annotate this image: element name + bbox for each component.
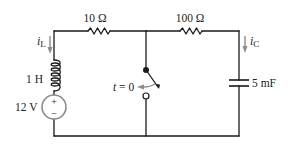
circuit-schematic: 10 Ω 100 Ω iL iC 1 H 12 V + − 5 mF t = 0 [0, 0, 291, 148]
voltage-source-plus: + [51, 96, 57, 107]
current-arrow-iL-icon [48, 36, 53, 54]
resistor-10-ohm [88, 28, 110, 34]
voltage-source-label: 12 V [15, 101, 38, 113]
resistor-100-ohm-label: 100 Ω [176, 12, 205, 24]
voltage-source-minus: − [51, 108, 57, 119]
switch-open-terminal [143, 93, 149, 99]
inductor-label: 1 H [26, 73, 43, 85]
resistor-100-ohm [180, 28, 202, 34]
capacitor-current-label: iC [250, 34, 259, 49]
inductor-current-label: iL [37, 34, 46, 49]
switch-pivot-dot [143, 67, 149, 73]
capacitor-label: 5 mF [252, 77, 276, 89]
switch-time-label: t = 0 [113, 81, 134, 93]
resistor-10-ohm-label: 10 Ω [84, 12, 107, 24]
inductor-coil [51, 60, 60, 91]
circuit-diagram: 10 Ω 100 Ω iL iC 1 H 12 V + − 5 mF t = 0 [0, 0, 291, 148]
switch-arrow-icon [137, 84, 160, 90]
current-arrow-iC-icon [243, 36, 248, 53]
capacitor-5mF [229, 80, 249, 86]
